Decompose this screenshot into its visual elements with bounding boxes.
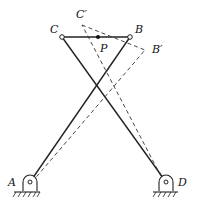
label-C-prime: C′ [76, 8, 87, 21]
link-AB-prime [32, 50, 145, 182]
point-P [96, 35, 100, 39]
joint-B [128, 35, 133, 40]
four-bar-linkage-diagram: C B P C′ B′ A D [0, 0, 198, 205]
link-AB [30, 37, 130, 182]
joint-C [60, 35, 65, 40]
link-DC [62, 37, 166, 182]
label-C: C [50, 23, 59, 36]
label-P: P [99, 42, 108, 55]
ground-pivot-A [13, 175, 40, 197]
label-A: A [7, 176, 16, 189]
ground-pivot-D [153, 175, 178, 197]
label-D: D [177, 176, 187, 189]
label-B: B [134, 23, 143, 36]
label-B-prime: B′ [151, 43, 163, 56]
